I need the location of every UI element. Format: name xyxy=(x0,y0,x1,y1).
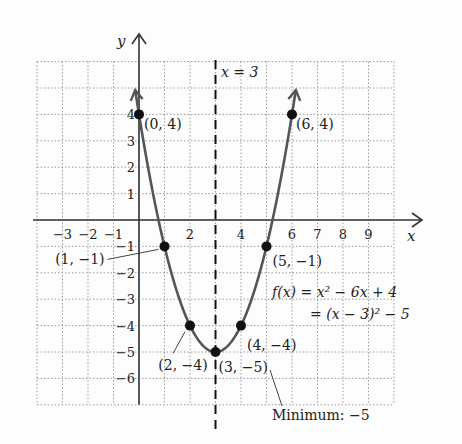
data-point xyxy=(134,109,144,119)
equation-line-2: = (x − 3)² − 5 xyxy=(310,306,410,322)
minimum-label: Minimum: −5 xyxy=(272,407,370,423)
y-tick-label: 3 xyxy=(127,134,135,149)
x-tick-label: 2 xyxy=(186,227,194,242)
data-point xyxy=(160,241,170,251)
y-tick-label: 2 xyxy=(127,160,135,175)
y-tick-label: −2 xyxy=(116,266,135,281)
x-tick-label: 9 xyxy=(364,227,372,242)
equation-line-1: f(x) = x² − 6x + 4 xyxy=(271,284,397,300)
data-point xyxy=(211,347,221,357)
parabola-graph: −3−2−12467894321−1−2−3−4−5−6 (0, 4)(1, −… xyxy=(0,0,462,444)
point-label: (4, −4) xyxy=(247,337,296,353)
y-tick-label: −1 xyxy=(116,239,135,254)
data-point xyxy=(185,321,195,331)
y-tick-label: −4 xyxy=(116,319,135,334)
x-tick-label: 4 xyxy=(237,227,245,242)
point-label: (6, 4) xyxy=(296,116,334,132)
axes xyxy=(33,34,422,405)
y-tick-label: 4 xyxy=(127,107,135,122)
data-point xyxy=(262,241,272,251)
point-label: (2, −4) xyxy=(158,357,207,373)
point-label: (3, −5) xyxy=(219,359,268,375)
x-tick-label: −3 xyxy=(53,227,72,242)
x-tick-label: 7 xyxy=(313,227,321,242)
axis-y-label: y xyxy=(116,32,126,50)
x-tick-label: 8 xyxy=(339,227,347,242)
y-tick-label: −6 xyxy=(116,371,135,386)
x-tick-label: 6 xyxy=(288,227,296,242)
axis-x-label: x xyxy=(407,227,416,245)
x-tick-label: −2 xyxy=(78,227,97,242)
y-tick-label: −3 xyxy=(116,292,135,307)
y-tick-label: −5 xyxy=(116,345,135,360)
data-point xyxy=(236,321,246,331)
point-label: (1, −1) xyxy=(55,251,104,267)
symmetry-label: x = 3 xyxy=(221,64,259,80)
point-label: (0, 4) xyxy=(144,116,182,132)
y-tick-label: 1 xyxy=(127,187,135,202)
point-label: (5, −1) xyxy=(273,253,322,269)
